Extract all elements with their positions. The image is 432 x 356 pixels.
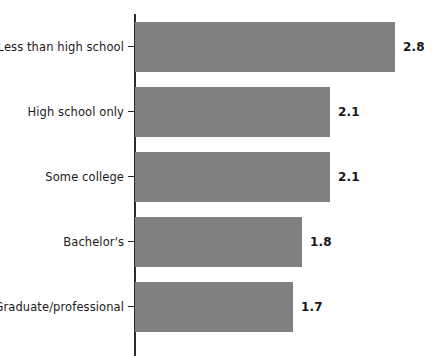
bar-value-label: 1.8 xyxy=(310,235,332,249)
chart-row: Graduate/professional 1.7 xyxy=(0,274,432,339)
chart-row: Bachelor's 1.8 xyxy=(0,209,432,274)
y-axis-tick xyxy=(128,241,135,243)
bar-value-label: 1.7 xyxy=(301,300,323,314)
y-axis-tick xyxy=(128,46,135,48)
y-axis-tick xyxy=(128,111,135,113)
bar[interactable] xyxy=(135,217,302,267)
bar[interactable] xyxy=(135,282,293,332)
plot-area: Less than high school 2.8 High school on… xyxy=(0,0,432,356)
y-axis-tick xyxy=(128,176,135,178)
category-label: Bachelor's xyxy=(63,235,124,249)
chart-row: Less than high school 2.8 xyxy=(0,14,432,79)
bar-value-label: 2.8 xyxy=(403,40,425,54)
bar[interactable] xyxy=(135,22,395,72)
y-axis-tick xyxy=(128,306,135,308)
bar[interactable] xyxy=(135,87,330,137)
category-label: High school only xyxy=(27,105,124,119)
bar-chart: Less than high school 2.8 High school on… xyxy=(0,0,432,356)
category-label: Graduate/professional xyxy=(0,300,124,314)
bar-value-label: 2.1 xyxy=(338,170,360,184)
chart-row: High school only 2.1 xyxy=(0,79,432,144)
category-label: Some college xyxy=(45,170,124,184)
bar[interactable] xyxy=(135,152,330,202)
chart-row: Some college 2.1 xyxy=(0,144,432,209)
category-label: Less than high school xyxy=(0,40,124,54)
bar-value-label: 2.1 xyxy=(338,105,360,119)
